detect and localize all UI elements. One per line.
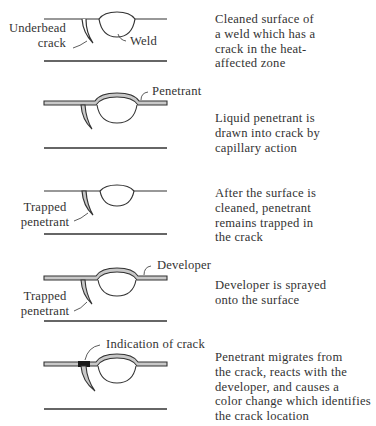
step-4-description: Developer is sprayed onto the surface	[215, 278, 326, 308]
penetrant-leader-line	[141, 92, 148, 100]
step-1-description: Cleaned surface of a weld which has a cr…	[215, 12, 315, 71]
step-3-description: After the surface is cleaned, penetrant …	[215, 186, 316, 245]
label-indication-of-crack: Indication of crack	[106, 337, 205, 352]
penetrant-filled-crack	[81, 280, 92, 304]
label-developer: Developer	[157, 258, 211, 273]
label-penetrant: Penetrant	[152, 84, 201, 99]
label-trapped-penetrant: Trapped penetrant	[18, 200, 72, 230]
panel-5-crack-indication	[44, 345, 167, 409]
indication-leader-line	[85, 345, 100, 360]
label-underbead-crack: Underbead crack	[6, 21, 66, 51]
underbead-crack	[82, 19, 93, 43]
weld-bead	[97, 105, 137, 123]
penetrant-coating	[44, 93, 167, 105]
trapped-leader-line	[74, 213, 88, 221]
weld-bead	[98, 280, 136, 296]
label-trapped-penetrant: Trapped penetrant	[18, 289, 72, 319]
penetrant-filled-crack	[82, 191, 93, 215]
penetrant-filled-crack	[81, 105, 92, 129]
trapped-leader-line	[74, 302, 87, 311]
panel-2-penetrant-applied	[44, 92, 167, 148]
step-2-description: Liquid penetrant is drawn into crack by …	[215, 111, 320, 155]
weld-crown	[99, 12, 135, 19]
weld-crown	[100, 185, 134, 191]
step-5-description: Penetrant migrates from the crack, react…	[215, 350, 371, 424]
crack-leader-line	[73, 41, 87, 48]
penetrant-filled-crack	[81, 366, 95, 391]
weld-bead	[98, 366, 136, 383]
label-weld: Weld	[130, 34, 157, 49]
developer-coating	[44, 268, 167, 280]
developer-leader-line	[144, 266, 151, 275]
weld-bead	[100, 191, 134, 206]
developer-coating	[44, 354, 167, 366]
